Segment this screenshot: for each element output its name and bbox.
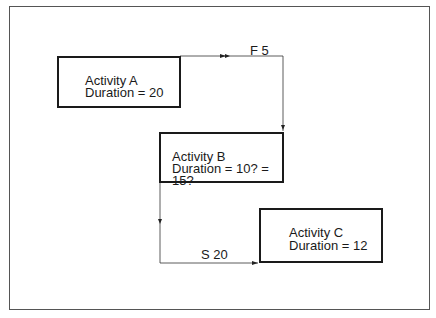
arrow-down-icon	[281, 125, 285, 130]
activity-c-duration: Duration = 12	[289, 240, 367, 252]
link-label-s20: S 20	[201, 249, 228, 261]
activity-a-box: Activity A Duration = 20	[57, 56, 181, 108]
arrow-right-icon	[252, 261, 258, 265]
arrow-down-icon	[158, 219, 162, 224]
activity-c-box: Activity C Duration = 12	[259, 208, 383, 263]
activity-a-duration: Duration = 20	[85, 87, 163, 99]
link-label-f5: F 5	[250, 45, 269, 57]
activity-b-box: Activity B Duration = 10? = 15?	[159, 132, 284, 183]
activity-b-duration: Duration = 10? = 15?	[172, 163, 282, 187]
